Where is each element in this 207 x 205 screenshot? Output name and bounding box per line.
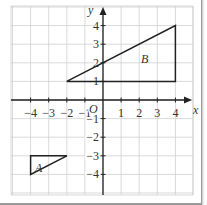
x-tick-label: 3 xyxy=(154,106,160,120)
y-tick-label: −2 xyxy=(86,130,99,144)
x-axis-arrow-icon xyxy=(184,97,192,104)
coordinate-grid-diagram: −4−3−2−112344321−1−2−3−4 x y O AB xyxy=(0,0,207,205)
x-tick-label: −4 xyxy=(24,106,37,120)
y-tick-label: 4 xyxy=(93,19,99,33)
triangle-a-label: A xyxy=(34,161,43,175)
x-tick-label: 2 xyxy=(136,106,142,120)
y-tick-label: −4 xyxy=(86,167,99,181)
y-axis-arrow-icon xyxy=(100,7,107,15)
labels: x y O AB xyxy=(34,3,199,175)
y-tick-label: 3 xyxy=(93,37,99,51)
x-tick-label: −3 xyxy=(42,106,55,120)
x-tick-label: −2 xyxy=(60,106,73,120)
y-axis-label: y xyxy=(87,3,94,17)
triangle-b-label: B xyxy=(141,52,149,66)
x-tick-label: 4 xyxy=(172,106,178,120)
x-axis-label: x xyxy=(192,103,199,117)
y-tick-label: −3 xyxy=(86,149,99,163)
x-tick-label: 1 xyxy=(118,106,124,120)
origin-label: O xyxy=(89,102,98,116)
